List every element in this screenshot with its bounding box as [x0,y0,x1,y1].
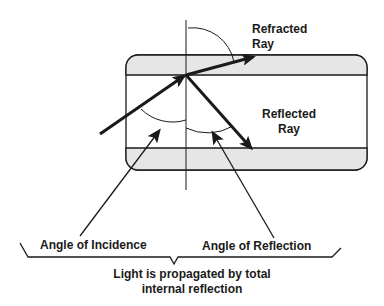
fiber-diagram [0,0,384,306]
angle-of-reflection-label: Angle of Reflection [202,239,311,254]
caption-line2: internal reflection [92,282,292,297]
reflected-ray-label-line2: Ray [262,122,316,137]
refracted-ray-label-line1: Refracted [252,22,307,37]
incidence-pointer [80,131,159,236]
bottom-cladding [126,148,367,170]
angle-of-incidence-label: Angle of Incidence [40,238,147,253]
reflected-ray-label: Reflected Ray [262,107,316,137]
reflected-ray-label-line1: Reflected [262,107,316,122]
refracted-ray-label: Refracted Ray [252,22,307,52]
caption-line1: Light is propagated by total [92,267,292,282]
fiber-body [126,55,367,170]
caption: Light is propagated by total internal re… [92,267,292,297]
refracted-ray-label-line2: Ray [252,37,307,52]
